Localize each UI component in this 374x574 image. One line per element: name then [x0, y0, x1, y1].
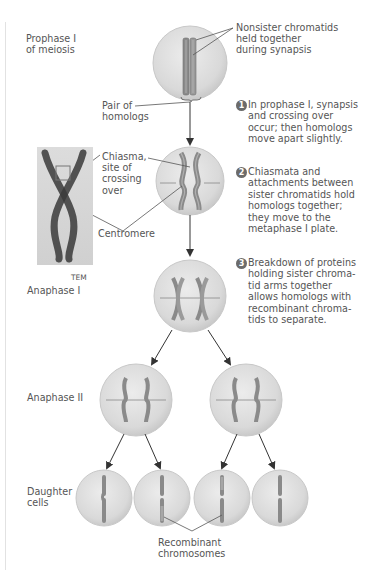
step-1-line: occur; then homologs	[248, 122, 374, 133]
pair-line1: Pair of	[102, 100, 149, 111]
anaphase2-cell-left	[100, 364, 172, 436]
tem-caption: TEM	[71, 272, 87, 283]
chiasma-line4: over	[102, 185, 147, 196]
callout-centromere: Centromere	[98, 228, 155, 239]
step-2-line: they move to the	[248, 212, 374, 223]
callout-recombinant-chromosomes: Recombinant chromosomes	[158, 537, 225, 559]
prophase-line2: of meiosis	[26, 44, 76, 55]
chiasma-line1: Chiasma,	[102, 151, 147, 162]
step-3-line: holding sister chroma-	[248, 268, 374, 279]
anaphase2-cell-right	[210, 364, 282, 436]
step-3-text: Breakdown of proteins holding sister chr…	[248, 257, 374, 325]
daughter-line2: cells	[27, 497, 72, 508]
daughter-line1: Daughter	[27, 486, 72, 497]
anaphase1-cell	[154, 260, 226, 332]
step-2-line: metaphase I plate.	[248, 223, 374, 234]
nonsister-line3: during synapsis	[236, 44, 338, 55]
step-1-line: move apart slightly.	[248, 133, 374, 144]
recombinant-line1: Recombinant	[158, 537, 225, 548]
step-3-badge: 3	[236, 258, 247, 269]
prophase-cell	[153, 26, 227, 102]
metaphase-cell	[156, 147, 224, 215]
daughter-cell-1	[76, 470, 132, 526]
daughter-cell-4	[252, 470, 308, 526]
step-3-line: tids to separate.	[248, 314, 374, 325]
step-1-badge: 1	[236, 100, 247, 111]
stage-label-prophase: Prophase I of meiosis	[26, 33, 76, 55]
stage-label-anaphase2: Anaphase II	[27, 392, 83, 403]
tem-micrograph	[37, 147, 93, 265]
callout-pair-of-homologs: Pair of homologs	[102, 100, 149, 122]
step-1-line: and crossing over	[248, 110, 374, 121]
step-1-text: In prophase I, synapsis and crossing ove…	[248, 99, 374, 145]
step-2-text: Chiasmata and attachments between sister…	[248, 166, 374, 234]
chiasma-line3: crossing	[102, 173, 147, 184]
callout-nonsister-chromatids: Nonsister chromatids held together durin…	[236, 22, 338, 56]
step-2-line: sister chromatids hold	[248, 189, 374, 200]
daughter-cell-2	[134, 470, 190, 526]
prophase-line1: Prophase I	[26, 33, 76, 44]
step-1-line: In prophase I, synapsis	[248, 99, 374, 110]
step-2-line: Chiasmata and	[248, 166, 374, 177]
step-2-badge: 2	[236, 167, 247, 178]
daughter-cell-3	[194, 470, 250, 526]
step-3-line: allows homologs with	[248, 291, 374, 302]
chiasma-line2: site of	[102, 162, 147, 173]
callout-chiasma: Chiasma, site of crossing over	[102, 151, 147, 196]
step-3-line: recombinant chroma-	[248, 303, 374, 314]
pair-line2: homologs	[102, 111, 149, 122]
nonsister-line2: held together	[236, 33, 338, 44]
stage-label-anaphase1: Anaphase I	[27, 285, 80, 296]
step-2-line: homologs together;	[248, 200, 374, 211]
stage-label-daughter-cells: Daughter cells	[27, 486, 72, 508]
step-3-line: tid arms together	[248, 280, 374, 291]
step-3-line: Breakdown of proteins	[248, 257, 374, 268]
nonsister-line1: Nonsister chromatids	[236, 22, 338, 33]
recombinant-line2: chromosomes	[158, 548, 225, 559]
step-2-line: attachments between	[248, 177, 374, 188]
